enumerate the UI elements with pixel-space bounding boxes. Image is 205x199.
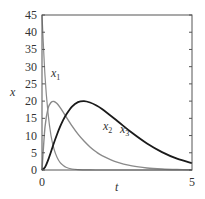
- y-tick-label: 30: [25, 60, 37, 74]
- y-tick-label: 10: [25, 129, 37, 143]
- y-tick-label: 5: [31, 146, 37, 160]
- y-tick-label: 35: [25, 42, 37, 56]
- series-layer: [42, 15, 192, 170]
- series-x1-line: [42, 15, 192, 170]
- series-label-x1: x1: [50, 66, 60, 82]
- x-tick-label: 5: [189, 175, 195, 189]
- y-tick-label: 40: [25, 25, 37, 39]
- y-tick-label: 45: [25, 8, 37, 22]
- series-x2-line: [42, 101, 192, 170]
- y-tick-label: 25: [25, 77, 37, 91]
- y-axis-label: x: [9, 85, 16, 99]
- y-axis-ticks: 051015202530354045: [25, 8, 192, 177]
- series-label-x3: x3: [119, 122, 129, 138]
- series-x3-line: [42, 101, 192, 170]
- y-tick-label: 20: [25, 94, 37, 108]
- series-label-x2: x2: [102, 119, 112, 135]
- plot-frame: [42, 15, 192, 170]
- x-tick-label: 0: [39, 175, 45, 189]
- y-tick-label: 0: [31, 163, 37, 177]
- chart: 051015202530354045 05 x t x1x2x3: [0, 0, 205, 199]
- y-tick-label: 15: [25, 111, 37, 125]
- x-axis-label: t: [115, 180, 119, 194]
